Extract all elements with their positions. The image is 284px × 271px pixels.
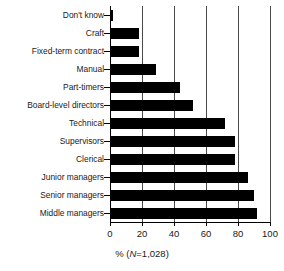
category-tick-mark: [104, 195, 110, 196]
x-tick-label: 0: [95, 228, 125, 239]
category-label: Don't know: [63, 10, 104, 20]
x-tick-mark-60: [206, 222, 207, 226]
x-axis-title: % (N=1,028): [0, 248, 284, 259]
category-label: Technical: [69, 118, 104, 128]
category-label: Junior managers: [42, 172, 104, 182]
category-label: Clerical: [76, 154, 104, 164]
category-label: Part-timers: [63, 82, 104, 92]
category-tick-mark: [104, 33, 110, 34]
category-label: Senior managers: [40, 190, 104, 200]
x-tick-label: 100: [255, 228, 284, 239]
x-axis-title-prefix: % (: [115, 248, 129, 259]
category-label: Fixed-term contract: [32, 46, 104, 56]
category-label: Manual: [77, 64, 104, 74]
x-axis-line: [110, 222, 271, 223]
category-tick-mark: [104, 159, 110, 160]
bar-chart: Don't knowCraftFixed-term contractManual…: [0, 0, 284, 271]
x-axis-title-suffix: =1,028): [136, 248, 169, 259]
category-tick-mark: [104, 69, 110, 70]
category-tick-mark: [104, 213, 110, 214]
x-tick-label: 60: [191, 228, 221, 239]
x-tick-mark-20: [142, 222, 143, 226]
x-tick-mark-40: [174, 222, 175, 226]
x-tick-mark-100: [270, 222, 271, 226]
category-tick-mark: [104, 51, 110, 52]
category-axis-labels: Don't knowCraftFixed-term contractManual…: [0, 6, 284, 222]
category-tick-mark: [104, 15, 110, 16]
category-label: Craft: [86, 28, 104, 38]
x-tick-mark-0: [110, 222, 111, 226]
category-tick-mark: [104, 105, 110, 106]
category-label: Supervisors: [60, 136, 104, 146]
category-tick-mark: [104, 141, 110, 142]
x-tick-label: 20: [127, 228, 157, 239]
category-label: Board-level directors: [27, 100, 104, 110]
x-tick-label: 80: [223, 228, 253, 239]
x-tick-label: 40: [159, 228, 189, 239]
category-label: Middle managers: [40, 208, 104, 218]
category-tick-mark: [104, 177, 110, 178]
category-tick-mark: [104, 123, 110, 124]
category-tick-mark: [104, 87, 110, 88]
x-tick-mark-80: [238, 222, 239, 226]
